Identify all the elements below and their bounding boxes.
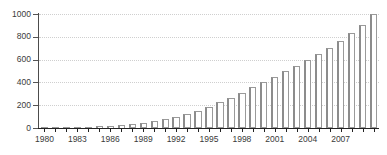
x-tick-1985 xyxy=(99,128,100,132)
y-tick-0 xyxy=(33,128,38,129)
bar-1990 xyxy=(151,121,158,128)
bar-1998 xyxy=(238,93,245,128)
x-tick-2006 xyxy=(330,128,331,132)
y-tick-800 xyxy=(33,37,38,38)
bar-2002 xyxy=(282,71,289,128)
bar-chart: 02004006008001000 1980198319861989199219… xyxy=(0,0,387,155)
y-tick-label-600: 600 xyxy=(0,55,31,64)
bar-1996 xyxy=(216,102,223,128)
bar-2001 xyxy=(271,77,278,128)
bar-2003 xyxy=(293,66,300,128)
y-tick-label-800: 800 xyxy=(0,32,31,41)
x-tick-1980 xyxy=(44,128,45,132)
y-tick-600 xyxy=(33,60,38,61)
y-tick-label-0: 0 xyxy=(0,124,31,133)
x-tick-label-1983: 1983 xyxy=(68,135,87,144)
bar-2008 xyxy=(348,33,355,128)
bar-2009 xyxy=(359,25,366,128)
x-tick-1984 xyxy=(88,128,89,132)
x-tick-label-2004: 2004 xyxy=(298,135,317,144)
x-tick-2007 xyxy=(341,128,342,132)
y-tick-label-1000: 1000 xyxy=(0,10,31,19)
x-tick-1988 xyxy=(132,128,133,132)
x-tick-1986 xyxy=(110,128,111,132)
x-tick-1994 xyxy=(198,128,199,132)
bar-1992 xyxy=(172,117,179,128)
bar-2004 xyxy=(304,60,311,128)
x-tick-2001 xyxy=(275,128,276,132)
x-tick-label-1980: 1980 xyxy=(35,135,54,144)
x-tick-1982 xyxy=(66,128,67,132)
bar-1997 xyxy=(227,98,234,128)
bar-2000 xyxy=(260,82,267,128)
x-tick-2004 xyxy=(308,128,309,132)
x-tick-1989 xyxy=(143,128,144,132)
x-tick-1997 xyxy=(231,128,232,132)
bar-2006 xyxy=(326,48,333,128)
bar-1991 xyxy=(162,119,169,128)
bar-1999 xyxy=(249,87,256,128)
bars-layer xyxy=(39,14,379,128)
y-tick-label-200: 200 xyxy=(0,101,31,110)
x-tick-2010 xyxy=(374,128,375,132)
x-tick-2003 xyxy=(297,128,298,132)
x-tick-1992 xyxy=(176,128,177,132)
x-tick-label-1995: 1995 xyxy=(200,135,219,144)
bar-2007 xyxy=(337,41,344,128)
bar-2010 xyxy=(370,14,377,128)
y-tick-label-400: 400 xyxy=(0,78,31,87)
x-tick-label-2007: 2007 xyxy=(331,135,350,144)
x-tick-2008 xyxy=(352,128,353,132)
bar-1995 xyxy=(205,107,212,128)
bar-1993 xyxy=(183,114,190,128)
x-tick-1987 xyxy=(121,128,122,132)
x-tick-2000 xyxy=(264,128,265,132)
x-tick-1990 xyxy=(154,128,155,132)
x-tick-1995 xyxy=(209,128,210,132)
y-tick-200 xyxy=(33,105,38,106)
x-tick-1996 xyxy=(220,128,221,132)
x-tick-2002 xyxy=(286,128,287,132)
x-tick-1991 xyxy=(165,128,166,132)
bar-2005 xyxy=(315,54,322,128)
x-tick-1983 xyxy=(77,128,78,132)
x-tick-1981 xyxy=(55,128,56,132)
x-tick-label-2001: 2001 xyxy=(265,135,284,144)
y-axis-line xyxy=(38,13,39,129)
bar-1994 xyxy=(194,111,201,128)
x-tick-2005 xyxy=(319,128,320,132)
x-tick-label-1998: 1998 xyxy=(232,135,251,144)
y-tick-400 xyxy=(33,82,38,83)
x-tick-1999 xyxy=(253,128,254,132)
x-tick-1998 xyxy=(242,128,243,132)
y-tick-1000 xyxy=(33,14,38,15)
x-tick-label-1992: 1992 xyxy=(167,135,186,144)
x-tick-1993 xyxy=(187,128,188,132)
x-tick-label-1986: 1986 xyxy=(101,135,120,144)
x-tick-2009 xyxy=(363,128,364,132)
x-tick-label-1989: 1989 xyxy=(134,135,153,144)
